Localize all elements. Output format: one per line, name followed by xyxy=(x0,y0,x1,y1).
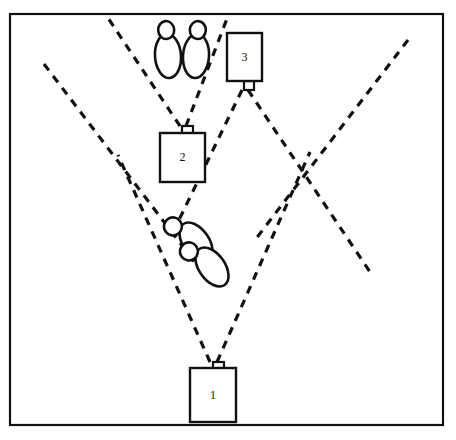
footprint-upper-left xyxy=(153,20,183,79)
beam-device3-right xyxy=(248,90,370,272)
device-label: 2 xyxy=(180,150,186,164)
footprint-heel xyxy=(189,21,206,40)
device-emitter xyxy=(244,81,254,90)
device-label: 1 xyxy=(210,388,216,402)
diagram-canvas: 123 xyxy=(0,0,456,440)
footprint-heel xyxy=(158,21,175,40)
footprint-upper-right xyxy=(181,20,211,79)
device-3[interactable]: 3 xyxy=(227,33,262,90)
beam-long-diagonal-right xyxy=(255,40,408,240)
device-2[interactable]: 2 xyxy=(160,126,205,182)
scene-svg: 123 xyxy=(0,0,456,440)
device-1[interactable]: 1 xyxy=(190,362,236,422)
beam-device1-right xyxy=(217,152,310,362)
device-label: 3 xyxy=(242,50,248,64)
